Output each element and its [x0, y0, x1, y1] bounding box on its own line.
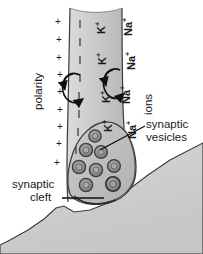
ion-symbol: K — [96, 57, 108, 65]
charge-plus: + — [56, 52, 62, 63]
charge-plus: + — [56, 138, 62, 149]
ion-charge: + — [95, 53, 102, 57]
ion-charge: + — [119, 86, 126, 90]
vesicle — [79, 143, 92, 156]
ion-symbol: Na — [126, 124, 138, 139]
ion-symbol: K — [102, 124, 114, 132]
vesicle-fusing — [106, 177, 120, 191]
vesicle — [72, 160, 85, 173]
charge-plus: + — [57, 69, 63, 80]
ion-charge: + — [121, 18, 128, 22]
charge-plus: + — [57, 104, 63, 115]
charge-plus: + — [56, 34, 62, 45]
ion-symbol: Na — [125, 55, 137, 70]
synaptic-vesicles-label-line1: synaptic — [146, 118, 188, 130]
synaptic-cleft-label-line1: synaptic — [12, 178, 54, 190]
diagram-canvas: + + + + + + + + + K + Na + — [0, 0, 203, 254]
ion-symbol: Na — [122, 21, 134, 36]
charge-plus: + — [55, 16, 61, 27]
charge-plus: + — [57, 121, 63, 132]
ion-charge: + — [101, 120, 108, 124]
ion-charge: + — [99, 91, 106, 95]
synaptic-cleft-label-line2: cleft — [30, 191, 52, 203]
ion-symbol: Na — [120, 89, 132, 104]
ion-charge: + — [125, 121, 132, 125]
ion-charge: + — [94, 22, 101, 26]
charge-plus: + — [54, 157, 60, 168]
ion-charge: + — [124, 52, 131, 56]
vesicle — [89, 130, 101, 142]
ion-symbol: K — [95, 26, 107, 34]
synaptic-vesicles-label-line2: vesicles — [146, 131, 187, 143]
svg-text:polarity: polarity — [32, 73, 44, 110]
ion-symbol: K — [100, 95, 112, 103]
vesicle — [89, 163, 102, 176]
synapse-diagram-figure: + + + + + + + + + K + Na + — [0, 0, 203, 254]
polarity-label: polarity — [32, 73, 44, 110]
svg-text:ions: ions — [142, 94, 154, 115]
ions-label: ions — [142, 94, 154, 115]
vesicle — [79, 178, 92, 191]
vesicle — [108, 160, 121, 173]
